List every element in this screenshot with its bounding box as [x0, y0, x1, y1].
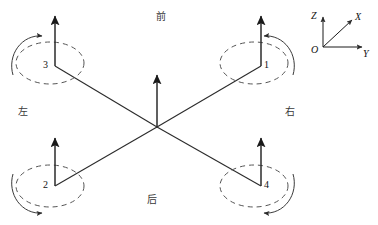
axis-label-z: Z — [311, 11, 317, 21]
thrust-arrows — [55, 16, 261, 186]
rotor-disc-1 — [220, 42, 288, 84]
airframe-arms — [55, 66, 261, 186]
arm-to-rotor-1 — [157, 66, 261, 127]
quadrotor-diagram: 前 后 左 右 3 1 2 4 Z X Y O — [0, 0, 378, 225]
rotor-label-1: 1 — [264, 60, 269, 70]
arm-to-rotor-4 — [157, 127, 261, 186]
orientation-label-left: 左 — [18, 107, 28, 117]
rotor-label-4: 4 — [264, 180, 269, 190]
axis-label-x: X — [355, 12, 361, 22]
rotor-disc-4 — [220, 165, 288, 207]
orientation-label-rear: 后 — [147, 195, 157, 205]
axis-origin-label: O — [311, 45, 318, 55]
axis-label-y: Y — [363, 49, 369, 59]
rotor-label-2: 2 — [43, 180, 48, 190]
rotor-label-3: 3 — [43, 60, 48, 70]
arm-to-rotor-2 — [55, 127, 157, 186]
orientation-label-front: 前 — [156, 12, 166, 22]
rotor-disc-2 — [16, 165, 84, 207]
diagram-vector-layer — [0, 0, 378, 225]
spin-arc-rotor-3 — [12, 36, 42, 75]
spin-arc-rotor-2 — [12, 174, 42, 213]
rotor-disc-3 — [16, 42, 84, 84]
axis-x-line — [323, 20, 352, 47]
orientation-label-right: 右 — [285, 107, 295, 117]
arm-to-rotor-3 — [55, 66, 157, 127]
